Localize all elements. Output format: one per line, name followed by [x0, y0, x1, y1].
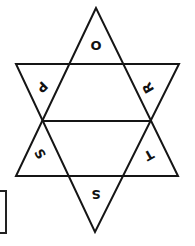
- answer-box[interactable]: [0, 191, 6, 233]
- face-label-lower-left: S: [31, 146, 49, 162]
- face-lower-left: S: [31, 146, 49, 162]
- face-upper-left: P: [33, 78, 50, 95]
- face-label-upper-right: R: [139, 80, 157, 96]
- face-lower-right: T: [141, 146, 156, 163]
- star-net-diagram: O P R S T S: [0, 0, 195, 246]
- face-label-top: O: [90, 38, 101, 53]
- face-bottom: S: [91, 187, 100, 202]
- face-upper-right: R: [139, 80, 157, 96]
- face-label-lower-right: T: [141, 146, 156, 163]
- face-label-upper-left: P: [33, 78, 50, 95]
- face-label-bottom: S: [91, 187, 100, 202]
- face-top: O: [90, 38, 101, 53]
